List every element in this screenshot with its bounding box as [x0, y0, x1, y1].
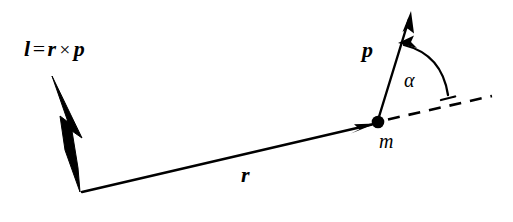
- momentum-vector: [378, 11, 414, 120]
- equation-label: l=r×p: [24, 38, 85, 60]
- equation-rhs-first: r: [48, 36, 57, 61]
- momentum-label: p: [362, 39, 373, 61]
- mass-label: m: [379, 131, 393, 151]
- cross-product-icon: ×: [57, 39, 74, 60]
- mass-point-dot: [372, 116, 385, 129]
- angle-label: α: [404, 70, 415, 90]
- equation-lhs: l: [24, 36, 31, 61]
- radius-label: r: [241, 164, 250, 186]
- radius-vector: [82, 124, 376, 193]
- equation-equals: =: [31, 36, 48, 61]
- equation-rhs-second: p: [74, 36, 86, 61]
- diagram-canvas: [0, 0, 513, 222]
- angular-momentum-vector: [52, 76, 82, 192]
- angle-arrowhead-lower: [441, 97, 455, 101]
- angular-momentum-diagram: l=r×p p r m α: [0, 0, 513, 222]
- momentum-arrowhead: [403, 11, 415, 34]
- angular-momentum-arrow-body: [52, 76, 82, 192]
